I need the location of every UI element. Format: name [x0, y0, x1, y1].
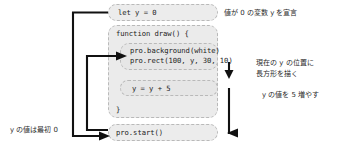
annotation-draw-rect-line1: 現在の y の位置に — [256, 58, 314, 69]
arrow-increment-to-start — [227, 88, 238, 138]
annotation-draw-rect-line2: 長方形を描く — [256, 69, 298, 80]
block-function-draw — [108, 25, 218, 118]
block-draw-body-line1: pro.background(white) — [130, 46, 220, 55]
annotation-declare: 値が 0 の変数 y を宣言 — [224, 8, 298, 19]
diagram-canvas: let y = 0 function draw() { } pro.backgr… — [0, 0, 340, 154]
annotation-increase: y の値を 5 増やす — [262, 90, 319, 101]
block-closing-brace-text: } — [116, 105, 120, 114]
block-function-draw-text: function draw() { — [116, 29, 189, 38]
block-draw-body-line2: pro.rect(100, y, 30, 10) — [130, 56, 233, 65]
block-pro-start-text: pro.start() — [116, 128, 163, 137]
block-increment-text: y = y + 5 — [132, 84, 171, 93]
annotation-initial-value: y の値は最初 0 — [10, 125, 58, 136]
block-let-y-text: let y = 0 — [118, 8, 157, 17]
arrow-let-to-start — [73, 13, 110, 141]
